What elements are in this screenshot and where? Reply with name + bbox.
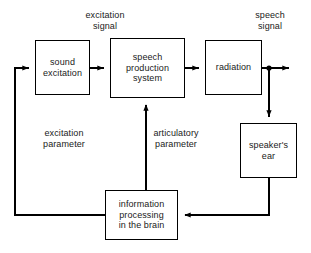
label-articulatory-parameter: articulatory parameter: [133, 128, 219, 149]
junction-dot-speech-signal-tap: [266, 65, 271, 70]
node-label-speech-production-system: speech production system: [126, 52, 169, 84]
node-sound-excitation[interactable]: sound excitation: [35, 40, 90, 95]
connector-speakers-ear-to-information-processing: [185, 178, 270, 215]
label-excitation-parameter: excitation parameter: [21, 128, 107, 149]
node-information-processing-in-the-brain[interactable]: information processing in the brain: [105, 190, 178, 240]
node-label-speakers-ear: speaker's ear: [249, 140, 288, 161]
node-label-sound-excitation: sound excitation: [43, 57, 82, 78]
node-radiation[interactable]: radiation: [205, 40, 262, 95]
node-speakers-ear[interactable]: speaker's ear: [240, 123, 297, 178]
label-speech-signal: speech signal: [234, 10, 306, 31]
block-diagram: sound excitation speech production syste…: [0, 0, 311, 253]
node-label-information-processing-in-the-brain: information processing in the brain: [119, 199, 165, 231]
node-speech-production-system[interactable]: speech production system: [110, 38, 185, 98]
node-label-radiation: radiation: [216, 62, 251, 73]
label-excitation-signal: excitation signal: [62, 10, 148, 31]
